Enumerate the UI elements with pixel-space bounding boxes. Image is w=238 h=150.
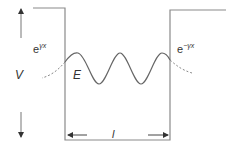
potential-label: V (15, 69, 23, 81)
potential-well-outline (33, 8, 226, 140)
left-decay-label: eγx (33, 44, 46, 55)
right-decay-tail (170, 60, 192, 73)
left-decay-tail (42, 62, 65, 78)
energy-label: E (73, 69, 81, 81)
width-label: l (112, 129, 114, 140)
well-diagram (0, 0, 238, 150)
right-decay-label: e−γx (177, 44, 194, 55)
